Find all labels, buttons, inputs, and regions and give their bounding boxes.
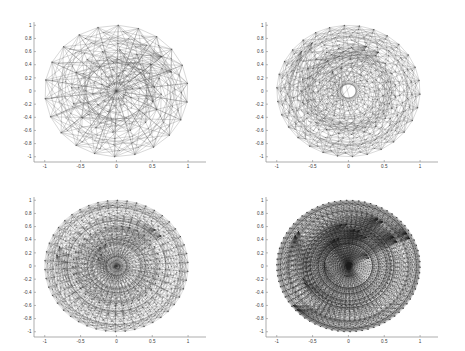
y-tick-label: 0 — [29, 89, 32, 94]
y-tick-label: 1 — [261, 198, 264, 203]
y-tick-label: 0.2 — [25, 251, 32, 256]
x-tick-label: 0.5 — [149, 339, 156, 344]
y-tick-label: 0.8 — [25, 36, 32, 41]
y-tick-label: 0.4 — [257, 62, 264, 67]
y-tick-label: -0.2 — [24, 102, 32, 107]
plot-area-mesh-level-4: -1-0.500.51-1-0.8-0.6-0.4-0.200.20.40.60… — [232, 175, 465, 351]
y-tick-label: 0.2 — [257, 76, 264, 81]
y-tick-label: 0 — [261, 89, 264, 94]
x-tick-label: -1 — [275, 164, 280, 169]
y-tick-label: -0.4 — [24, 290, 32, 295]
y-tick-label: -1 — [259, 329, 264, 334]
plot-area-mesh-level-1: -1-0.500.51-1-0.8-0.6-0.4-0.200.20.40.60… — [0, 0, 233, 176]
subplot-mesh-level-3: -1-0.500.51-1-0.8-0.6-0.4-0.200.20.40.60… — [0, 175, 233, 351]
y-tick-label: 0.4 — [257, 237, 264, 242]
x-tick-label: 0 — [347, 339, 350, 344]
y-tick-label: -0.8 — [24, 316, 32, 321]
x-tick-label: 1 — [419, 339, 422, 344]
mesh-edges — [277, 25, 420, 156]
y-tick-label: -0.4 — [24, 115, 32, 120]
y-tick-label: -0.8 — [256, 141, 264, 146]
y-tick-label: -1 — [27, 329, 32, 334]
y-tick-label: 0.8 — [257, 36, 264, 41]
plot-area-mesh-level-3: -1-0.500.51-1-0.8-0.6-0.4-0.200.20.40.60… — [0, 175, 233, 351]
x-tick-label: -0.5 — [77, 339, 85, 344]
mesh-edges — [45, 25, 187, 156]
mesh-mesh-level-3 — [45, 200, 188, 331]
y-tick-label: 0.6 — [25, 49, 32, 54]
x-tick-label: 0.5 — [149, 164, 156, 169]
mesh-edges — [45, 200, 188, 331]
y-tick-label: -1 — [27, 154, 32, 159]
x-tick-label: -0.5 — [309, 164, 317, 169]
mesh-mesh-level-1 — [45, 25, 187, 156]
y-tick-label: -0.6 — [24, 303, 32, 308]
y-tick-label: 0.8 — [25, 211, 32, 216]
y-tick-label: -0.8 — [256, 316, 264, 321]
y-tick-label: 0.6 — [257, 224, 264, 229]
y-tick-label: -0.6 — [256, 303, 264, 308]
x-tick-label: 1 — [419, 164, 422, 169]
y-tick-label: 1 — [29, 198, 32, 203]
x-tick-label: -0.5 — [309, 339, 317, 344]
y-tick-label: 1 — [29, 23, 32, 28]
y-tick-label: 0 — [261, 264, 264, 269]
x-tick-label: -1 — [43, 339, 48, 344]
subplot-mesh-level-1: -1-0.500.51-1-0.8-0.6-0.4-0.200.20.40.60… — [0, 0, 233, 176]
mesh-edges — [277, 200, 420, 331]
x-tick-label: 0 — [115, 164, 118, 169]
y-tick-label: -0.6 — [256, 128, 264, 133]
x-tick-label: 0.5 — [381, 164, 388, 169]
y-tick-label: 0.8 — [257, 211, 264, 216]
y-tick-label: -0.4 — [256, 290, 264, 295]
y-tick-label: -0.8 — [24, 141, 32, 146]
y-tick-label: -0.4 — [256, 115, 264, 120]
y-tick-label: 0.2 — [25, 76, 32, 81]
y-tick-label: 0.4 — [25, 62, 32, 67]
y-tick-label: 0.2 — [257, 251, 264, 256]
x-tick-label: 0 — [347, 164, 350, 169]
x-tick-label: 0.5 — [381, 339, 388, 344]
y-tick-label: 0.6 — [257, 49, 264, 54]
mesh-mesh-level-2 — [277, 25, 420, 156]
x-tick-label: 1 — [187, 339, 190, 344]
mesh-mesh-level-4 — [277, 200, 420, 331]
plot-area-mesh-level-2: -1-0.500.51-1-0.8-0.6-0.4-0.200.20.40.60… — [232, 0, 465, 176]
subplot-mesh-level-2: -1-0.500.51-1-0.8-0.6-0.4-0.200.20.40.60… — [232, 0, 465, 176]
y-tick-label: -0.6 — [24, 128, 32, 133]
x-tick-label: -1 — [275, 339, 280, 344]
y-tick-label: -0.2 — [24, 277, 32, 282]
y-tick-label: 0.4 — [25, 237, 32, 242]
x-tick-label: -0.5 — [77, 164, 85, 169]
figure-canvas: -1-0.500.51-1-0.8-0.6-0.4-0.200.20.40.60… — [0, 0, 465, 351]
y-tick-label: -1 — [259, 154, 264, 159]
y-tick-label: -0.2 — [256, 102, 264, 107]
y-tick-label: 0 — [29, 264, 32, 269]
x-tick-label: -1 — [43, 164, 48, 169]
y-tick-label: -0.2 — [256, 277, 264, 282]
y-tick-label: 1 — [261, 23, 264, 28]
x-tick-label: 0 — [115, 339, 118, 344]
x-tick-label: 1 — [187, 164, 190, 169]
subplot-mesh-level-4: -1-0.500.51-1-0.8-0.6-0.4-0.200.20.40.60… — [232, 175, 465, 351]
y-tick-label: 0.6 — [25, 224, 32, 229]
